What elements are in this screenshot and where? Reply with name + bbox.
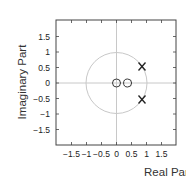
y-tick-label: 1 <box>45 47 50 57</box>
x-tick-label: −0.5 <box>93 149 110 159</box>
pole-marker-icon <box>139 63 146 71</box>
y-tick-label: 0 <box>45 78 50 88</box>
x-tick-label: −1.5 <box>63 149 80 159</box>
x-tick-label: 1 <box>144 149 149 159</box>
pole-zero-plot: −1.5−1−0.500.511.5 1.510.50−0.5−1−1.5 Re… <box>0 0 186 186</box>
pole-marker-icon <box>139 95 146 103</box>
x-tick-labels: −1.5−1−0.500.511.5 <box>63 149 168 159</box>
y-tick-label: −1.5 <box>33 125 50 135</box>
x-tick-label: 0.5 <box>126 149 138 159</box>
y-tick-labels: 1.510.50−0.5−1−1.5 <box>33 32 50 135</box>
y-tick-label: −0.5 <box>33 94 50 104</box>
x-axis-label: Real Part <box>144 166 186 178</box>
x-tick-label: 0 <box>114 149 119 159</box>
x-tick-label: −1 <box>82 149 92 159</box>
x-tick-label: 1.5 <box>156 149 168 159</box>
y-axis-label: Imaginary Part <box>16 44 28 120</box>
y-tick-label: 0.5 <box>38 63 50 73</box>
y-tick-label: 1.5 <box>38 32 50 42</box>
y-tick-label: −1 <box>40 109 50 119</box>
